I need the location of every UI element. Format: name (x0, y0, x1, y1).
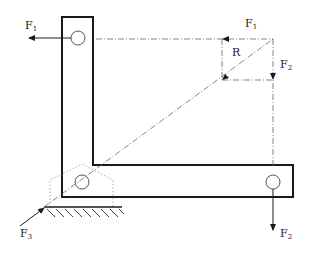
label-f2-bottom: F2 (280, 227, 292, 241)
pin-top (71, 31, 85, 45)
label-f2-right: F2 (280, 58, 292, 72)
support-housing (50, 164, 113, 207)
ground-hatch (44, 207, 124, 217)
f1-parallelogram-arrowhead (222, 36, 229, 42)
label-f1-left: F1 (25, 19, 37, 33)
f3-arrow (20, 208, 44, 226)
r-arrowhead (222, 74, 229, 80)
label-f3: F3 (20, 227, 32, 241)
f2-parallelogram-arrowhead (270, 73, 276, 80)
pin-right (266, 175, 280, 189)
l-bracket (62, 17, 293, 197)
label-r: R (232, 46, 241, 59)
label-f1-top: F1 (245, 17, 257, 31)
force-diagram: F1 F1 R F2 F2 F3 (0, 0, 313, 254)
construction-lines (44, 39, 273, 207)
pin-pivot (75, 175, 89, 189)
